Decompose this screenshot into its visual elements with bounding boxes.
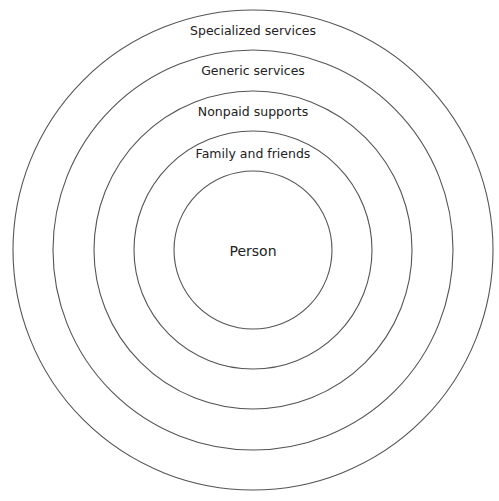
label-person: Person xyxy=(229,243,276,259)
label-nonpaid-supports: Nonpaid supports xyxy=(198,104,308,119)
label-family-and-friends: Family and friends xyxy=(196,146,311,161)
label-generic-services: Generic services xyxy=(201,63,305,78)
support-circles-diagram: Specialized services Generic services No… xyxy=(0,0,499,501)
label-specialized-services: Specialized services xyxy=(190,23,316,38)
